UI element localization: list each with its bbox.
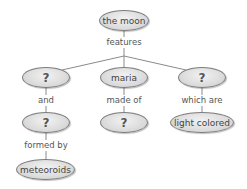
concept-node-unknown-middle-child[interactable]: ? <box>100 112 148 133</box>
concept-node-maria[interactable]: maria <box>100 67 148 88</box>
concept-node-unknown-left[interactable]: ? <box>22 67 70 88</box>
link-label-made-of: made of <box>105 95 142 106</box>
concept-node-unknown-right[interactable]: ? <box>178 67 226 88</box>
link-label-formed-by: formed by <box>23 140 69 151</box>
concept-node-unknown-left-child[interactable]: ? <box>22 112 70 133</box>
concept-node-light-colored[interactable]: light colored <box>170 112 234 133</box>
link-label-and: and <box>37 95 55 106</box>
link-label-features: features <box>105 37 142 48</box>
concept-node-meteoroids[interactable]: meteoroids <box>16 159 75 180</box>
concept-node-the-moon[interactable]: the moon <box>99 10 149 31</box>
link-label-which-are: which are <box>180 95 223 106</box>
